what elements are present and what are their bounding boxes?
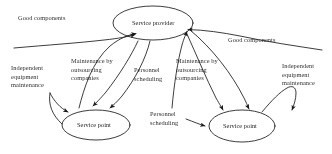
edge-label-independent-maintenance-left: Independent equipment maintenance — [11, 64, 44, 90]
edge-label-line: scheduling — [134, 75, 162, 84]
edge-label-outsourcing-left: Maintenance by outsourcing companies — [71, 57, 113, 83]
edge-label-good-components-left: Good components — [18, 14, 65, 23]
edge-label-line: Independent — [11, 64, 44, 73]
edge-label-line: Personnel — [134, 66, 162, 75]
node-label-service-point-right: Service point — [223, 122, 257, 129]
edge-label-personnel-scheduling-center: Personnel scheduling — [134, 66, 162, 83]
edge-label-line: Good components — [228, 36, 275, 45]
edge-label-line: Good components — [18, 14, 65, 23]
node-label-service-point-left: Service point — [77, 121, 111, 128]
edge-self-loop-right — [262, 87, 296, 112]
edge-label-line: outsourcing — [176, 66, 218, 75]
edge-label-line: maintenance — [11, 81, 44, 90]
edge-label-line: companies — [176, 74, 218, 83]
edge-label-line: maintenance — [282, 79, 315, 88]
edge-label-good-components-right: Good components — [228, 36, 275, 45]
edge-label-line: Maintenance by — [176, 57, 218, 66]
edge-label-line: companies — [71, 74, 113, 83]
diagram-canvas: Service provider Service point Service p… — [0, 0, 332, 154]
edge-label-line: equipment — [11, 73, 44, 82]
edge-label-personnel-scheduling-bottom: Personnel scheduling — [150, 110, 178, 127]
edge-self-loop-left — [50, 93, 68, 112]
edge-label-independent-maintenance-right: Independent equipment maintenance — [282, 62, 315, 88]
edge-label-line: Personnel — [150, 110, 178, 119]
edge-label-line: Independent — [282, 62, 315, 71]
edge-personnel-scheduling-right — [186, 119, 205, 126]
edge-label-outsourcing-right: Maintenance by outsourcing companies — [176, 57, 218, 83]
edge-label-line: scheduling — [150, 119, 178, 128]
edge-label-line: equipment — [282, 71, 315, 80]
node-label-service-provider: Service provider — [132, 19, 174, 26]
edge-label-line: outsourcing — [71, 66, 113, 75]
edge-self-loop-left-tail — [50, 93, 63, 124]
edge-label-line: Maintenance by — [71, 57, 113, 66]
